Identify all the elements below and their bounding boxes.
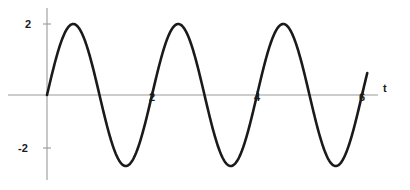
x-axis-tick-label-4: 4 <box>254 92 260 103</box>
y-axis-tick-label-2: 2 <box>25 19 31 30</box>
plot-canvas <box>0 0 410 190</box>
x-axis-tick-label-6: 6 <box>359 92 365 103</box>
x-axis-name-label: t <box>383 83 387 94</box>
x-axis-tick-label-2: 2 <box>149 92 155 103</box>
sine-wave-plot: 2 -2 2 4 6 t <box>0 0 410 190</box>
y-axis-tick-label-negative-2: -2 <box>18 143 28 154</box>
